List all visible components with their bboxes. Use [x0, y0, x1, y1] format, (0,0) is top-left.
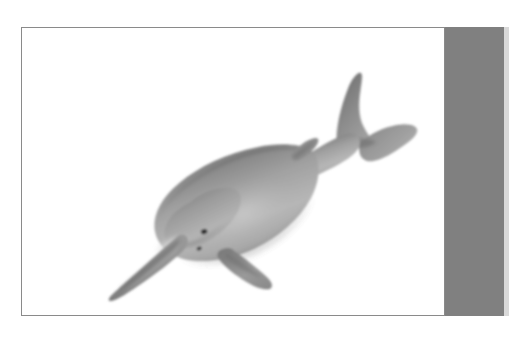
- gray-band-edge: [504, 27, 509, 316]
- gray-vertical-band: [445, 27, 504, 316]
- figure-card: Grayscale illustration of a river dolphi…: [21, 27, 445, 316]
- river-dolphin-illustration: Grayscale illustration of a river dolphi…: [22, 28, 444, 315]
- page-root: Grayscale illustration of a river dolphi…: [0, 0, 514, 339]
